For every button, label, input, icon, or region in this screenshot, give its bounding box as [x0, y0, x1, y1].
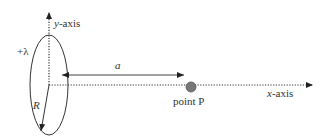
radius-label: R	[32, 99, 40, 111]
distance-label: a	[115, 59, 121, 71]
point-p-label: point P	[173, 95, 204, 107]
radius-arrow	[41, 85, 49, 131]
charge-label: +λ	[17, 45, 29, 57]
ring-charge-diagram: y-axis +λ a R point P x-axis	[0, 0, 328, 140]
x-axis-label: x-axis	[266, 87, 293, 99]
point-p-marker	[186, 82, 196, 92]
y-axis-label: y-axis	[53, 17, 80, 29]
